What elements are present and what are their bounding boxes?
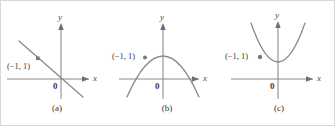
x-axis-arrow-icon (192, 76, 199, 82)
y-axis-label: y (160, 13, 164, 22)
figure-container: y x 0 (−1, 1) (a) y x 0 (−1, 1) (b) (0, 0, 335, 126)
x-axis-label: x (317, 74, 321, 83)
panel-c: y x 0 (−1, 1) (c) (223, 1, 335, 126)
panel-caption: (a) (1, 104, 113, 113)
point-label: (−1, 1) (112, 52, 135, 61)
x-axis-label: x (93, 74, 97, 83)
panel-caption: (b) (111, 104, 223, 113)
origin-label: 0 (270, 82, 275, 91)
y-axis-arrow-icon (58, 23, 63, 30)
point-label: (−1, 1) (225, 52, 248, 61)
panel-a: y x 0 (−1, 1) (a) (1, 1, 113, 126)
y-axis-label: y (58, 13, 62, 22)
panel-b: y x 0 (−1, 1) (b) (111, 1, 223, 126)
y-axis-arrow-icon (160, 23, 165, 30)
point-marker (258, 55, 262, 59)
x-axis-label: x (203, 74, 207, 83)
y-axis-label: y (275, 11, 279, 20)
origin-label: 0 (155, 82, 160, 91)
panel-caption: (c) (223, 104, 335, 113)
point-marker (143, 56, 147, 60)
x-axis-arrow-icon (306, 76, 313, 82)
x-axis-arrow-icon (82, 76, 89, 82)
origin-label: 0 (53, 82, 58, 91)
point-marker (36, 57, 40, 61)
point-label: (−1, 1) (7, 62, 30, 71)
y-axis-arrow-icon (275, 21, 280, 28)
